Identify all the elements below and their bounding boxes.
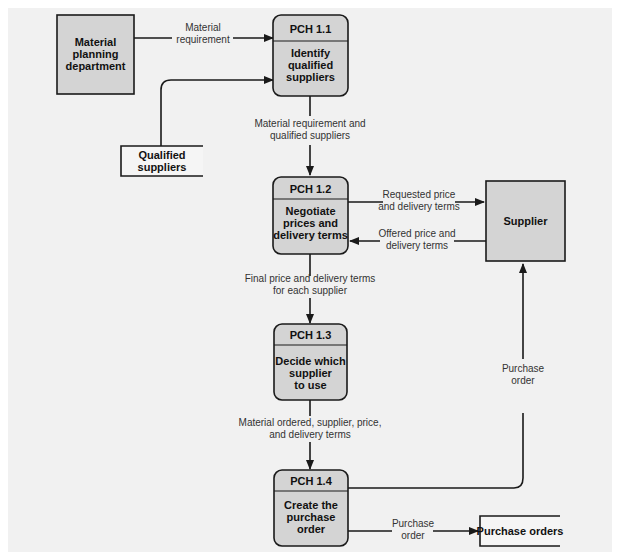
- flow-label-line: order: [401, 530, 425, 541]
- process-code: PCH 1.3: [290, 329, 332, 341]
- process-label-line: purchase: [287, 511, 336, 523]
- flow-label-line: and delivery terms: [378, 201, 460, 212]
- entity-label-line: planning: [73, 48, 119, 60]
- flow-line-qualified-suppliers: [161, 80, 273, 146]
- flow-label-offered-price: Offered price and delivery terms: [378, 228, 455, 251]
- flow-label-line: Requested price: [383, 189, 456, 200]
- data-store-label-line: Purchase orders: [477, 525, 564, 537]
- process-pch-1-3[interactable]: PCH 1.3 Decide which supplier to use: [274, 324, 347, 400]
- data-store-label-line: suppliers: [138, 161, 187, 173]
- flow-label-purchase-order-supplier: Purchase order: [502, 363, 545, 386]
- entity-label-line: department: [66, 60, 126, 72]
- flow-label-line: order: [511, 375, 535, 386]
- flow-line-purchase-order-to-supplier: [348, 264, 523, 488]
- flow-label-line: qualified suppliers: [270, 130, 350, 141]
- flow-label-line: Material ordered, supplier, price,: [239, 417, 382, 428]
- flow-label-line: Material: [185, 22, 221, 33]
- flow-label-line: Purchase: [392, 518, 435, 529]
- flow-label-material-requirement: Material requirement: [176, 22, 230, 45]
- entity-label-line: Supplier: [503, 215, 548, 227]
- process-label-line: qualified: [288, 59, 333, 71]
- flow-label-purchase-order-store: Purchase order: [392, 518, 435, 541]
- process-pch-1-1[interactable]: PCH 1.1 Identify qualified suppliers: [273, 15, 348, 96]
- flow-label-line: for each supplier: [273, 285, 348, 296]
- flow-label-material-and-qualified: Material requirement and qualified suppl…: [254, 118, 365, 141]
- process-code: PCH 1.4: [290, 475, 332, 487]
- flow-label-line: delivery terms: [386, 240, 448, 251]
- entity-label-line: Material: [75, 36, 117, 48]
- flow-label-final-price: Final price and delivery terms for each …: [245, 273, 376, 296]
- flow-label-line: and delivery terms: [269, 429, 351, 440]
- flow-label-requested-price: Requested price and delivery terms: [378, 189, 460, 212]
- process-label-line: Decide which: [275, 355, 346, 367]
- process-label-line: supplier: [289, 367, 333, 379]
- flow-label-line: Material requirement and: [254, 118, 365, 129]
- data-store-purchase-orders[interactable]: Purchase orders: [477, 516, 564, 546]
- data-flow-diagram: Material planning department Supplier Qu…: [0, 0, 622, 558]
- process-code: PCH 1.2: [290, 183, 332, 195]
- process-pch-1-2[interactable]: PCH 1.2 Negotiate prices and delivery te…: [273, 177, 348, 254]
- flow-label-line: requirement: [176, 34, 230, 45]
- data-store-qualified-suppliers[interactable]: Qualified suppliers: [121, 146, 203, 176]
- flow-label-material-ordered: Material ordered, supplier, price, and d…: [239, 417, 382, 440]
- process-label-line: suppliers: [286, 71, 335, 83]
- process-label-line: delivery terms: [273, 229, 348, 241]
- process-label-line: prices and: [283, 217, 338, 229]
- external-entity-material-planning[interactable]: Material planning department: [57, 15, 134, 94]
- external-entity-supplier[interactable]: Supplier: [486, 181, 565, 261]
- flow-label-line: Purchase: [502, 363, 545, 374]
- process-label-line: Negotiate: [285, 205, 335, 217]
- flow-label-line: Final price and delivery terms: [245, 273, 376, 284]
- flow-label-line: Offered price and: [378, 228, 455, 239]
- process-label-line: Identify: [291, 47, 331, 59]
- process-pch-1-4[interactable]: PCH 1.4 Create the purchase order: [274, 470, 348, 546]
- process-label-line: order: [297, 523, 326, 535]
- process-label-line: to use: [294, 379, 326, 391]
- process-code: PCH 1.1: [290, 23, 332, 35]
- data-store-label-line: Qualified: [138, 149, 185, 161]
- process-label-line: Create the: [284, 499, 338, 511]
